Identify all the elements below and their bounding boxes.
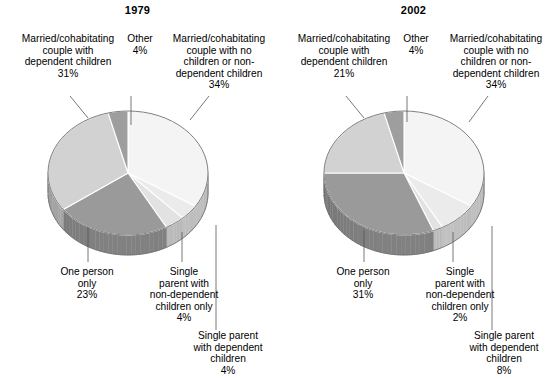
label-married-no-children-2002: Married/cohabitating couple with no chil…	[441, 33, 551, 91]
chart-panel-2002: 2002 Married/cohabitating couple with de…	[276, 0, 551, 379]
label-one-person-1979: One person only 23%	[42, 266, 132, 301]
label-other-2002: Other 4%	[388, 33, 444, 56]
label-other-1979: Other 4%	[112, 33, 168, 56]
label-single-dependent-2002: Single parent with dependent children 8%	[458, 330, 550, 376]
label-one-person-2002: One person only 31%	[318, 266, 408, 301]
label-married-no-children-1979: Married/cohabitating couple with no chil…	[165, 33, 273, 91]
leader-line	[469, 96, 488, 122]
label-single-non-dependent-2002: Single parent with non-dependent childre…	[416, 266, 504, 324]
leader-line	[70, 96, 88, 118]
label-single-non-dependent-1979: Single parent with non-dependent childre…	[140, 266, 228, 324]
leader-line	[190, 96, 209, 120]
label-single-dependent-1979: Single parent with dependent children 4%	[182, 330, 274, 376]
leader-line	[346, 96, 364, 118]
chart-panel-1979: 1979 Married/cohabitating couple with de…	[0, 0, 275, 379]
